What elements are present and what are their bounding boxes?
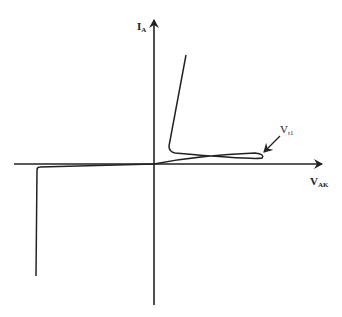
vt1-label: Vt1	[280, 124, 293, 137]
x-axis-label: VAK	[310, 176, 328, 189]
reverse-blocking-curve	[36, 164, 154, 276]
vt1-pointer-arrow	[264, 136, 280, 152]
iv-characteristic-diagram	[0, 0, 342, 317]
y-axis-label: IA	[137, 21, 146, 34]
forward-curve	[154, 55, 263, 164]
